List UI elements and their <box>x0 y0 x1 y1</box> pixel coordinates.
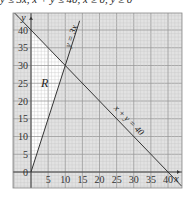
y-tick-label: 40 <box>18 25 28 36</box>
y-tick-label: 20 <box>18 96 28 107</box>
y-tick-label: 35 <box>18 42 28 53</box>
y-tick-label: 5 <box>23 149 28 160</box>
y-tick-label: 25 <box>18 78 28 89</box>
y-tick-label: 10 <box>18 131 28 142</box>
x-tick-label: 35 <box>146 174 156 185</box>
y-axis-label: y <box>20 12 26 23</box>
x-tick-label: 30 <box>129 174 139 185</box>
region-label: R <box>40 76 49 90</box>
y-tick-label: 0 <box>23 167 28 178</box>
y-tick-label: 15 <box>18 113 28 124</box>
x-tick-label: 15 <box>77 174 87 185</box>
x-tick-label: 25 <box>112 174 122 185</box>
x-tick-label: 40 <box>163 174 173 185</box>
y-tick-label: 30 <box>18 60 28 71</box>
x-tick-label: 5 <box>46 174 51 185</box>
x-tick-label: 20 <box>95 174 105 185</box>
x-tick-label: 10 <box>60 174 70 185</box>
linear-programming-graph: 5101520253035400510152025303540xyy = 3xx… <box>0 0 191 197</box>
x-axis-label: x <box>173 173 179 184</box>
